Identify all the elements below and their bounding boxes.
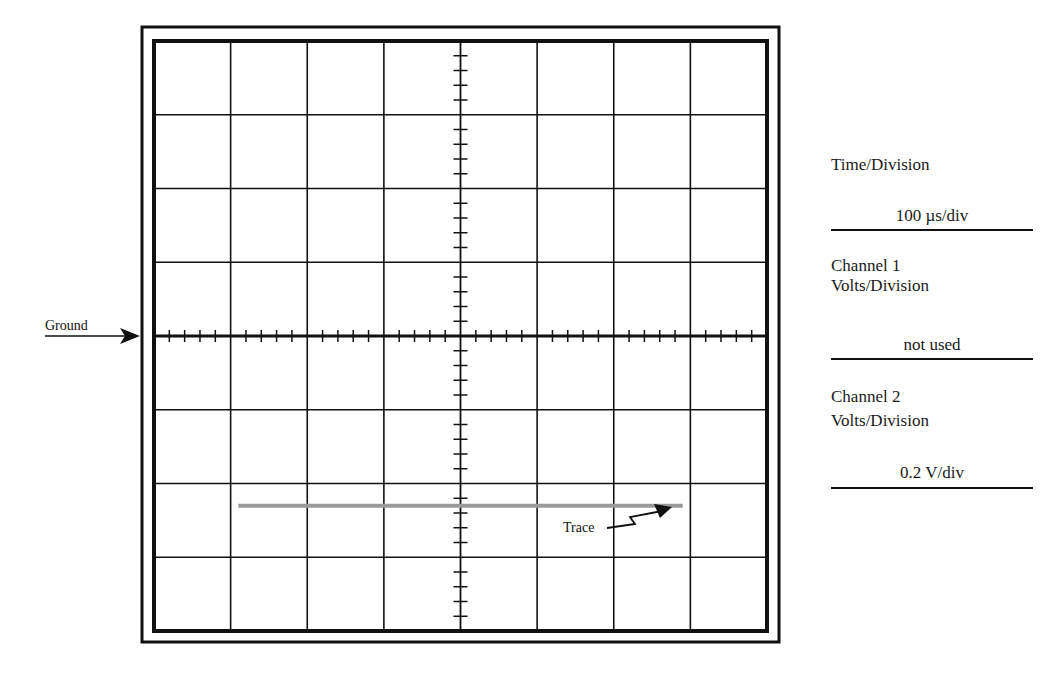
trace-callout-arrow xyxy=(607,511,662,528)
channel1-label-line1: Channel 1 xyxy=(831,255,900,276)
time-division-label: Time/Division xyxy=(831,154,930,175)
channel1-rule xyxy=(831,358,1033,360)
channel2-rule xyxy=(831,487,1033,489)
ground-label: Ground xyxy=(45,318,88,333)
channel1-value: not used xyxy=(831,334,1033,355)
channel2-label-line2: Volts/Division xyxy=(831,410,929,431)
channel2-value: 0.2 V/div xyxy=(831,462,1033,483)
trace-label: Trace xyxy=(563,520,594,535)
channel1-label-line2: Volts/Division xyxy=(831,275,929,296)
time-division-value: 100 µs/div xyxy=(831,205,1033,226)
time-division-rule xyxy=(831,229,1033,231)
channel2-label-line1: Channel 2 xyxy=(831,386,900,407)
